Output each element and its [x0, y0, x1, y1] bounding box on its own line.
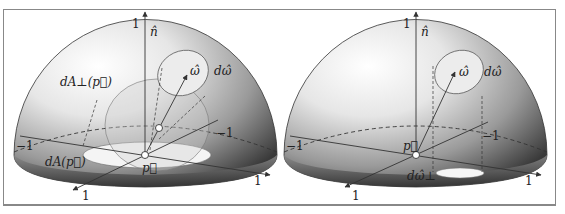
label-axis-front-left: 1: [352, 189, 360, 203]
label-axis-front-left: 1: [82, 189, 90, 203]
label-axis-top: 1: [403, 17, 411, 31]
label-projected-solid-angle: dω̂⊥: [407, 169, 436, 183]
label-axis-front-right: 1: [254, 174, 262, 188]
label-axis-right-back: −1: [482, 129, 500, 143]
label-area: dA(p⃗): [45, 155, 86, 169]
label-solid-angle: dω̂: [214, 64, 232, 78]
label-axis-left: −1: [286, 139, 304, 153]
label-omega: ω̂: [190, 64, 200, 78]
label-point: p⃗: [403, 139, 418, 153]
right-panel: 1 n̂ ω̂ dω̂ p⃗ dω̂⊥ −1 −1 1 1: [284, 12, 547, 203]
label-point: p⃗: [142, 161, 157, 175]
projected-point: [156, 125, 163, 132]
label-axis-top: 1: [132, 17, 140, 31]
label-axis-front-right: 1: [525, 174, 533, 188]
label-normal: n̂: [150, 25, 158, 39]
left-panel: 1 n̂ ω̂ dω̂ dA⊥(p⃗) dA(p⃗) p⃗ −1 −1 1 1: [14, 12, 277, 203]
origin-point: [142, 152, 149, 159]
label-axis-right-back: −1: [216, 126, 234, 140]
label-projected-area: dA⊥(p⃗): [60, 75, 112, 89]
label-solid-angle: dω̂: [484, 65, 502, 79]
label-normal: n̂: [421, 25, 429, 39]
projected-solid-angle-disc: [436, 168, 484, 178]
label-omega: ω̂: [459, 65, 469, 79]
hemisphere: [284, 19, 547, 187]
figure-svg: 1 n̂ ω̂ dω̂ dA⊥(p⃗) dA(p⃗) p⃗ −1 −1 1 1 …: [0, 0, 565, 214]
label-axis-left: −1: [16, 139, 34, 153]
